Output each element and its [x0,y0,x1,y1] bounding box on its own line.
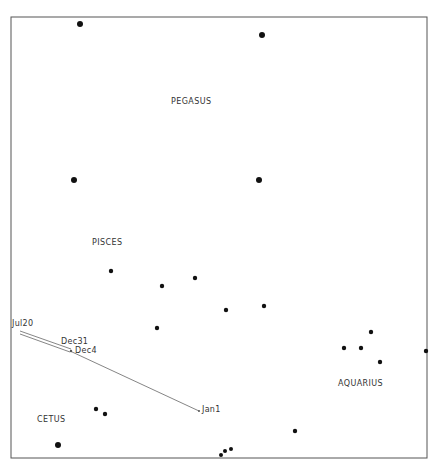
star-icon [259,32,265,38]
chart-frame [11,17,427,458]
star-icon [262,304,266,308]
star-icon [71,177,77,183]
star-icon [369,330,373,334]
path-label-dec31: Dec31 [61,338,88,346]
path-label-dec4: Dec4 [75,347,97,355]
path-to-jan1 [70,351,199,411]
star-icon [229,447,233,451]
object-path [20,331,200,412]
constellation-label-pisces: PISCES [92,239,122,247]
star-icon [155,326,159,330]
star-icon [94,407,98,411]
star-icon [219,453,223,457]
star-icon [77,21,83,27]
star-icon [103,412,107,416]
star-icon [293,429,297,433]
star-icon [224,308,228,312]
constellation-label-pegasus: PEGASUS [171,98,211,106]
star-icon [342,346,346,350]
constellation-label-aquarius: AQUARIUS [338,380,383,388]
star-icon [109,269,113,273]
star-icon [424,349,428,353]
star-chart [0,0,446,474]
star-icon [256,177,262,183]
star-icon [160,284,164,288]
star-icon [223,449,227,453]
dec4-marker [70,350,72,352]
star-icon [359,346,363,350]
path-label-jul20: Jul20 [12,320,33,328]
star-icon [55,442,61,448]
path-label-jan1: Jan1 [202,406,221,414]
star-icon [193,276,197,280]
constellation-label-cetus: CETUS [37,416,65,424]
jan1-marker [198,410,200,412]
star-icon [378,360,382,364]
